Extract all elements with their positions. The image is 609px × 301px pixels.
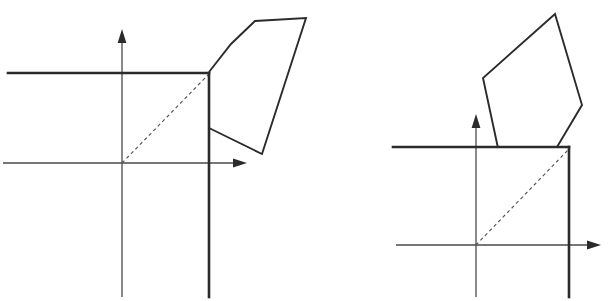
- left-y-axis-arrowhead-icon: [118, 29, 127, 43]
- left-pentagon-shape: [209, 18, 306, 154]
- left-thick-boundary: [8, 73, 209, 297]
- right-thick-boundary: [393, 147, 569, 297]
- right-y-axis-arrowhead-icon: [472, 114, 481, 128]
- left-dashed-diagonal: [122, 74, 209, 163]
- figure-container: [0, 0, 609, 301]
- right-pentagon-shape: [483, 14, 582, 148]
- geometry-diagram: [0, 0, 609, 301]
- right-panel-after-rotation: [393, 14, 601, 297]
- left-x-axis-arrowhead-icon: [233, 159, 247, 168]
- left-panel-before-rotation: [3, 18, 306, 297]
- right-x-axis-arrowhead-icon: [587, 241, 601, 250]
- right-dashed-diagonal: [476, 149, 569, 245]
